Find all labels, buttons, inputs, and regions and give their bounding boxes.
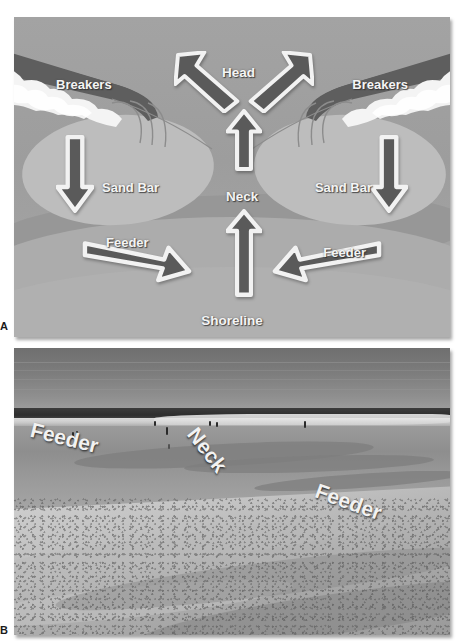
arrow-head-right-icon bbox=[248, 51, 314, 113]
label-breakers-right: Breakers bbox=[352, 77, 408, 92]
rip-current-diagram-panel: Breakers Breakers Head Neck Sand Bar San… bbox=[14, 17, 450, 337]
panel-letter-a: A bbox=[0, 320, 8, 332]
person-figure bbox=[304, 421, 306, 428]
label-sand-bar-left: Sand Bar bbox=[102, 180, 159, 195]
label-head: Head bbox=[222, 65, 255, 80]
person-figure bbox=[166, 427, 168, 435]
arrow-head-left-icon bbox=[174, 51, 240, 113]
arrow-down-left-icon bbox=[56, 135, 94, 213]
arrow-neck-lower-icon bbox=[226, 209, 262, 297]
beach-photograph-panel: Feeder Neck Feeder bbox=[14, 348, 450, 635]
panel-letter-b: B bbox=[0, 624, 8, 636]
label-breakers-left: Breakers bbox=[56, 77, 112, 92]
label-shoreline: Shoreline bbox=[201, 313, 263, 328]
label-feeder-left: Feeder bbox=[106, 235, 149, 250]
person-reflection bbox=[168, 444, 170, 449]
arrow-neck-upper-icon bbox=[226, 109, 262, 171]
label-neck: Neck bbox=[226, 189, 258, 204]
sky-region bbox=[14, 348, 450, 412]
person-figure bbox=[209, 421, 211, 426]
person-figure bbox=[154, 421, 156, 426]
label-sand-bar-right: Sand Bar bbox=[315, 180, 372, 195]
person-figure bbox=[216, 422, 218, 427]
arrow-down-right-icon bbox=[370, 135, 408, 213]
label-feeder-right: Feeder bbox=[323, 245, 366, 260]
sand-speckle-texture bbox=[14, 498, 450, 635]
